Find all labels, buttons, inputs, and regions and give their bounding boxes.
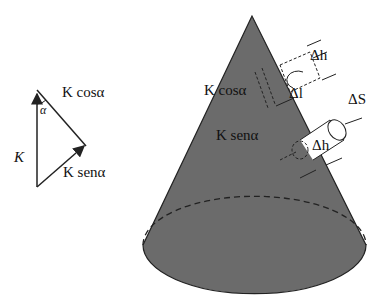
label-delta-h-top: Δh (310, 48, 327, 63)
cone (143, 16, 366, 294)
label-delta-S: ΔS (348, 92, 366, 107)
diagram-canvas: K α K cosα K senα K cosα K senα Δh Δl ΔS… (0, 0, 381, 297)
label-delta-h-bottom: Δh (312, 138, 329, 153)
label-K: K (14, 150, 24, 165)
label-K-sen-vector: K senα (63, 165, 105, 180)
label-alpha: α (40, 104, 46, 116)
label-delta-l: Δl (289, 86, 303, 101)
label-K-sen-cone: K senα (216, 128, 258, 143)
label-K-cos-vector: K cosα (62, 85, 104, 100)
label-K-cos-cone: K cosα (204, 83, 246, 98)
